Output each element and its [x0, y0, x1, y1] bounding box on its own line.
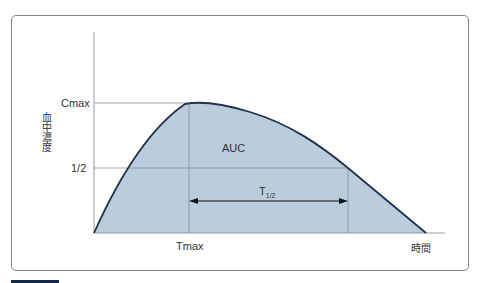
x-axis-label: 時間	[411, 240, 431, 255]
half-label: 1/2	[71, 162, 86, 174]
t-half-label: T1/2	[259, 185, 275, 199]
cmax-label: Cmax	[61, 97, 90, 109]
auc-label: AUC	[222, 142, 245, 154]
y-axis-label: 血中濃度	[40, 112, 52, 152]
t-half-main: T	[259, 185, 266, 197]
t-half-subscript: 1/2	[266, 192, 276, 199]
tmax-label: Tmax	[176, 240, 204, 252]
